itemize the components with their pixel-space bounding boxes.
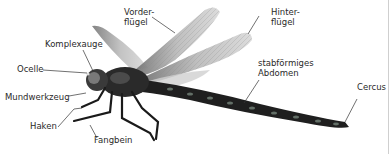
label-mundwerkzeug: Mundwerkzeug [5,92,70,102]
thorax [101,67,149,97]
label-hinterfluegel-2: flügel [271,17,295,27]
label-ocelle: Ocelle [17,64,44,74]
label-haken: Haken [30,121,57,131]
label-komplexauge: Komplexauge [45,39,103,49]
label-cercus: Cercus [357,82,386,92]
abdomen [142,80,349,128]
label-hinterfluegel-1: Hinter- [271,7,300,17]
label-abdomen-1: stabförmiges [258,58,314,68]
frame-border [388,0,389,154]
dragonfly-illustration [0,0,392,154]
label-fangbein: Fangbein [94,135,132,145]
label-vorderfluegel-2: flügel [124,17,148,27]
label-vorderfluegel-1: Vorder- [124,7,154,17]
label-abdomen-2: Abdomen [258,68,299,78]
dragonfly-diagram: Vorder- flügel Hinter- flügel Komplexaug… [0,0,392,154]
